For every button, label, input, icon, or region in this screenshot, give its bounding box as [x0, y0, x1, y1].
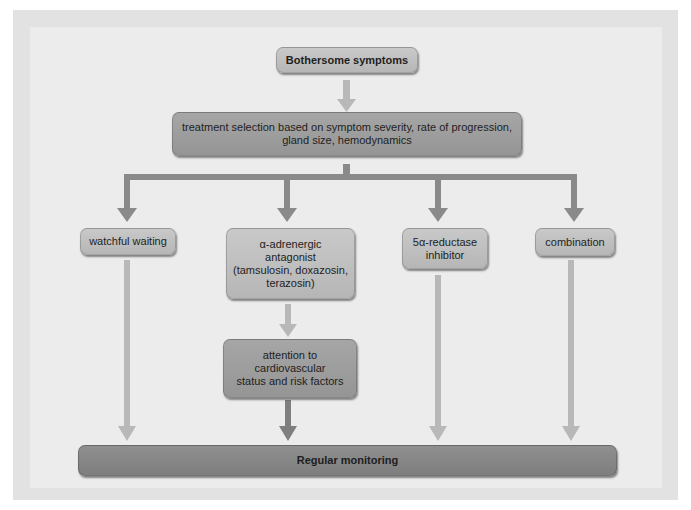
node-alpha-adrenergic-antagonist: α-adrenergic antagonist (tamsulosin, dox…	[226, 228, 355, 299]
node-label: combination	[545, 236, 604, 249]
node-cardiovascular-attention: attention to cardiovascular status and r…	[223, 339, 357, 398]
node-label: Regular monitoring	[297, 454, 398, 467]
node-bothersome-symptoms: Bothersome symptoms	[276, 47, 418, 73]
node-label: Bothersome symptoms	[286, 54, 408, 67]
node-combination: combination	[535, 228, 615, 256]
node-label-line3: status and risk factors	[237, 375, 344, 388]
node-label-line1: 5α-reductase	[413, 236, 477, 249]
node-label: watchful waiting	[89, 235, 167, 248]
node-label-line2: antagonist	[265, 251, 316, 264]
arrow-combination-to-monitoring	[562, 260, 580, 441]
arrow-reductase-to-monitoring	[429, 275, 447, 441]
node-5alpha-reductase-inhibitor: 5α-reductase inhibitor	[402, 228, 488, 269]
arrow-alpha-to-cardio	[279, 304, 297, 337]
node-label-line1: attention to	[263, 349, 317, 362]
node-label-line1: α-adrenergic	[260, 238, 322, 251]
node-treatment-selection: treatment selection based on symptom sev…	[172, 112, 522, 156]
arrow-watchful-to-monitoring	[118, 260, 136, 441]
node-label-line3: (tamsulosin, doxazosin,	[233, 264, 348, 277]
node-regular-monitoring: Regular monitoring	[78, 445, 617, 476]
node-label-line2: cardiovascular	[255, 362, 326, 375]
arrow-start-to-selection	[337, 80, 356, 112]
node-watchful-waiting: watchful waiting	[80, 228, 176, 255]
branch-connector	[117, 164, 584, 222]
node-label-line2: gland size, hemodynamics	[282, 134, 412, 147]
node-label-line4: terazosin)	[266, 277, 314, 290]
arrow-cardio-to-monitoring	[279, 400, 297, 441]
node-label-line1: treatment selection based on symptom sev…	[182, 121, 512, 134]
node-label-line2: inhibitor	[426, 249, 465, 262]
